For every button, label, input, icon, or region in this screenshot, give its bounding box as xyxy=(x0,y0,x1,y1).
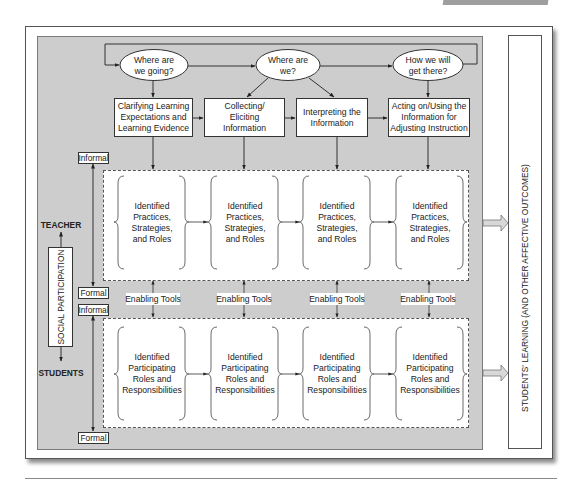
text-line: Information for xyxy=(401,112,456,123)
text-line: Acting on/Using the xyxy=(392,101,467,112)
text-line: Practices, xyxy=(226,212,264,223)
text-line: Identified xyxy=(320,201,355,212)
question-1: Where arewe going? xyxy=(120,50,188,81)
text-line: and Roles xyxy=(226,234,265,245)
text-line: Responsibilities xyxy=(400,385,460,396)
step-collecting: Collecting/ElicitingInformation xyxy=(204,98,285,137)
step-acting: Acting on/Using theInformation forAdjust… xyxy=(388,98,470,137)
text-line: How we will xyxy=(406,55,451,66)
teacher-informal-tag: Informal xyxy=(78,152,109,164)
text-line: get there? xyxy=(409,66,448,77)
teacher-label: TEACHER xyxy=(31,220,91,230)
step-interpreting: Interpreting theInformation xyxy=(296,98,368,137)
text-line: Information xyxy=(311,118,354,129)
social-participation-label: SOCIAL PARTICIPATION xyxy=(55,242,67,352)
text-line: Practices, xyxy=(133,212,171,223)
text-line: Identified xyxy=(135,201,170,212)
text-line: Strategies, xyxy=(131,223,172,234)
text-line: Where are xyxy=(268,55,308,66)
text-line: Strategies, xyxy=(409,223,450,234)
text-line: Roles and xyxy=(318,374,357,385)
text-line: Responsibilities xyxy=(307,385,367,396)
text-line: we going? xyxy=(134,66,173,77)
teacher-practice-4: IdentifiedPractices,Strategies,and Roles xyxy=(400,176,460,269)
enabling-tools-3: Enabling Tools xyxy=(310,293,364,305)
text-line: Roles and xyxy=(226,374,265,385)
text-line: Clarifying Learning xyxy=(118,101,190,112)
text-line: Strategies, xyxy=(316,223,357,234)
text-line: Practices, xyxy=(411,212,449,223)
text-line: Identified xyxy=(320,352,355,363)
student-role-2: IdentifiedParticipatingRoles andResponsi… xyxy=(210,327,280,420)
text-line: Information xyxy=(223,123,266,134)
enabling-tools-2: Enabling Tools xyxy=(217,293,271,305)
teacher-practice-2: IdentifiedPractices,Strategies,and Roles xyxy=(215,176,275,269)
text-line: and Roles xyxy=(411,234,450,245)
outcome-arrow-teacher xyxy=(483,215,508,231)
text-line: Participating xyxy=(221,363,268,374)
text-line: Participating xyxy=(313,363,360,374)
text-line: Responsibilities xyxy=(215,385,275,396)
text-line: and Roles xyxy=(133,234,172,245)
student-role-4: IdentifiedParticipatingRoles andResponsi… xyxy=(395,327,465,420)
students-formal-tag: Formal xyxy=(78,432,109,444)
text-line: Interpreting the xyxy=(303,107,361,118)
outcome-arrow-students xyxy=(483,365,508,381)
text-line: Learning Evidence xyxy=(118,123,189,134)
students-informal-tag: Informal xyxy=(78,304,109,316)
text-line: we? xyxy=(280,66,296,77)
text-line: Identified xyxy=(135,352,170,363)
text-line: Roles and xyxy=(411,374,450,385)
text-line: Participating xyxy=(406,363,453,374)
teacher-practice-1: IdentifiedPractices,Strategies,and Roles xyxy=(122,176,182,269)
text-line: Expectations and xyxy=(121,112,187,123)
text-line: Identified xyxy=(413,201,448,212)
text-line: Roles and xyxy=(133,374,172,385)
teacher-practice-3: IdentifiedPractices,Strategies,and Roles xyxy=(307,176,367,269)
text-line: Collecting/ xyxy=(224,101,264,112)
enabling-tools-1: Enabling Tools xyxy=(126,293,180,305)
text-line: Responsibilities xyxy=(122,385,182,396)
text-line: Adjusting Instruction xyxy=(390,123,467,134)
text-line: Participating xyxy=(128,363,175,374)
teacher-formal-tag: Formal xyxy=(78,287,109,299)
student-role-1: IdentifiedParticipatingRoles andResponsi… xyxy=(117,327,187,420)
student-role-3: IdentifiedParticipatingRoles andResponsi… xyxy=(302,327,372,420)
students-label: STUDENTS xyxy=(31,368,91,378)
text-line: Practices, xyxy=(318,212,356,223)
step-clarifying: Clarifying LearningExpectations andLearn… xyxy=(114,98,193,137)
text-line: Identified xyxy=(228,352,263,363)
question-3: How we willget there? xyxy=(393,50,463,81)
text-line: Eliciting xyxy=(230,112,260,123)
text-line: Identified xyxy=(228,201,263,212)
text-line: Identified xyxy=(413,352,448,363)
text-line: Strategies, xyxy=(224,223,265,234)
enabling-tools-4: Enabling Tools xyxy=(401,293,455,305)
text-line: and Roles xyxy=(318,234,357,245)
question-2: Where arewe? xyxy=(256,50,320,81)
text-line: Where are xyxy=(134,55,174,66)
